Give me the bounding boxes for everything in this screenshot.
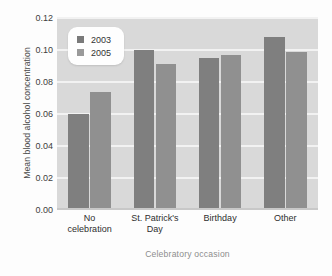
x-axis-tick-labels: NocelebrationSt. Patrick'sDayBirthdayOth…: [57, 213, 318, 247]
x-axis-baseline: [57, 208, 318, 210]
bar-2003-0[interactable]: [68, 114, 89, 210]
y-axis-tick-label: 0.04: [20, 141, 53, 151]
x-axis-tick-label: St. Patrick'sDay: [122, 213, 187, 235]
x-axis-tick-label: Birthday: [188, 213, 253, 224]
legend-label: 2005: [91, 48, 111, 58]
y-axis-tick-label: 0.00: [20, 205, 53, 215]
bar-2003-2[interactable]: [199, 58, 220, 210]
x-axis-tick-label: Other: [253, 213, 318, 224]
legend: 20032005: [68, 27, 124, 65]
bar-group: [199, 18, 242, 210]
bar-2005-0[interactable]: [90, 92, 111, 210]
bar-2005-2[interactable]: [221, 55, 242, 210]
bar-2003-3[interactable]: [264, 37, 285, 210]
bar-chart-figure: Mean blood alcohol concentration 0.000.0…: [0, 0, 332, 276]
y-axis-tick-label: 0.12: [20, 13, 53, 23]
legend-item-2005[interactable]: 2005: [77, 46, 111, 59]
legend-swatch-icon: [77, 36, 84, 43]
y-axis-tick-label: 0.08: [20, 77, 53, 87]
bar-2003-1[interactable]: [134, 50, 155, 210]
bar-group: [264, 18, 307, 210]
bar-2005-3[interactable]: [286, 52, 307, 210]
y-axis-tick-label: 0.02: [20, 173, 53, 183]
x-axis-tick-label: Nocelebration: [57, 213, 122, 235]
y-axis-tick-label: 0.10: [20, 45, 53, 55]
legend-label: 2003: [91, 35, 111, 45]
y-axis-tick-labels: 0.000.020.040.060.080.100.12: [20, 18, 53, 210]
legend-item-2003[interactable]: 2003: [77, 33, 111, 46]
y-axis-tick-label: 0.06: [20, 109, 53, 119]
x-axis-title: Celebratory occasion: [57, 249, 318, 259]
bar-group: [134, 18, 177, 210]
legend-swatch-icon: [77, 49, 84, 56]
bar-2005-1[interactable]: [156, 64, 177, 210]
